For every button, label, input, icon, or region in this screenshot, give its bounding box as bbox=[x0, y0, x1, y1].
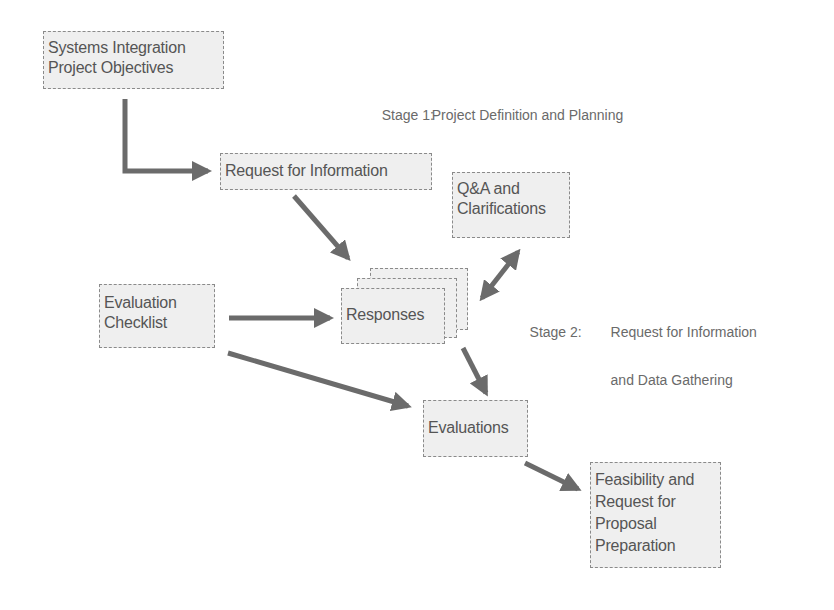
node-feasibility-rfp-preparation: Feasibility and Request for Proposal Pre… bbox=[590, 462, 721, 568]
node-request-for-information: Request for Information bbox=[220, 153, 432, 190]
stage-title-line: and Data Gathering bbox=[611, 372, 733, 388]
node-text-line: Proposal bbox=[595, 513, 716, 535]
node-text-line: Evaluations bbox=[428, 418, 523, 438]
arrow-rfi-to-responses bbox=[294, 196, 348, 258]
stage-number: Stage 1: bbox=[382, 107, 432, 123]
node-text-line: Systems Integration bbox=[48, 38, 219, 58]
arrow-evaluations-to-feasibility bbox=[525, 463, 578, 489]
node-text-line: Preparation bbox=[595, 535, 716, 557]
node-responses: Responses bbox=[341, 288, 445, 344]
node-project-objectives: Systems Integration Project Objectives bbox=[43, 31, 224, 89]
stage-title-line: Request for Information bbox=[611, 324, 757, 340]
stage-2-label: Stage 2:Request for Information and Data… bbox=[514, 308, 757, 404]
node-text-line: Request for bbox=[595, 491, 716, 513]
node-evaluation-checklist: Evaluation Checklist bbox=[99, 284, 215, 348]
node-text-line: Request for Information bbox=[225, 161, 427, 181]
node-text-line: Project Objectives bbox=[48, 58, 219, 78]
node-text-line: Evaluation bbox=[104, 293, 210, 313]
arrow-checklist-to-evaluations bbox=[228, 353, 408, 406]
stage-number: Stage 2: bbox=[530, 324, 611, 340]
node-text-line: Q&A and bbox=[457, 179, 565, 199]
node-text-line: Clarifications bbox=[457, 199, 565, 219]
stage-1-label: Stage 1:Project Definition and Planning bbox=[374, 91, 623, 123]
node-text-line: Checklist bbox=[104, 313, 210, 333]
node-evaluations: Evaluations bbox=[423, 400, 528, 457]
arrow-responses-to-evaluations bbox=[463, 348, 486, 393]
node-qa-clarifications: Q&A and Clarifications bbox=[452, 172, 570, 238]
node-text-line: Responses bbox=[346, 305, 440, 325]
arrow-responses-qa-bidirectional bbox=[482, 252, 518, 298]
arrow-objectives-to-rfi bbox=[125, 99, 208, 171]
node-text-line: Feasibility and bbox=[595, 469, 716, 491]
stage-title: Project Definition and Planning bbox=[432, 107, 623, 123]
